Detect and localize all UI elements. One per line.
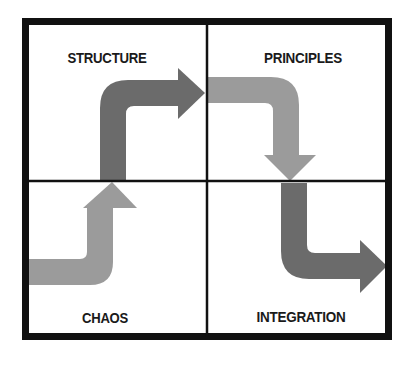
arrow-head-up-icon xyxy=(83,182,137,208)
arrow-structure-to-principles xyxy=(100,68,205,182)
arrow-principles-to-integration xyxy=(207,77,316,181)
arrow-chaos-to-structure xyxy=(22,182,137,285)
arrow-integration-exit xyxy=(281,183,387,293)
arrow-shaft xyxy=(100,80,180,182)
quadrant-diagram: STRUCTURE PRINCIPLES CHAOS INTEGRATION xyxy=(0,0,415,365)
diagram-canvas: STRUCTURE PRINCIPLES CHAOS INTEGRATION xyxy=(0,0,415,365)
arrow-shaft xyxy=(281,183,362,279)
arrow-shaft xyxy=(22,206,113,285)
arrow-shaft xyxy=(207,77,299,157)
quadrant-label-chaos: CHAOS xyxy=(82,309,128,326)
arrow-head-down-icon xyxy=(264,155,316,181)
arrow-head-right-icon xyxy=(178,68,205,119)
quadrant-label-structure: STRUCTURE xyxy=(68,49,147,66)
quadrant-label-principles: PRINCIPLES xyxy=(264,49,342,66)
quadrant-label-integration: INTEGRATION xyxy=(257,308,346,325)
arrow-head-right-icon xyxy=(360,240,387,293)
